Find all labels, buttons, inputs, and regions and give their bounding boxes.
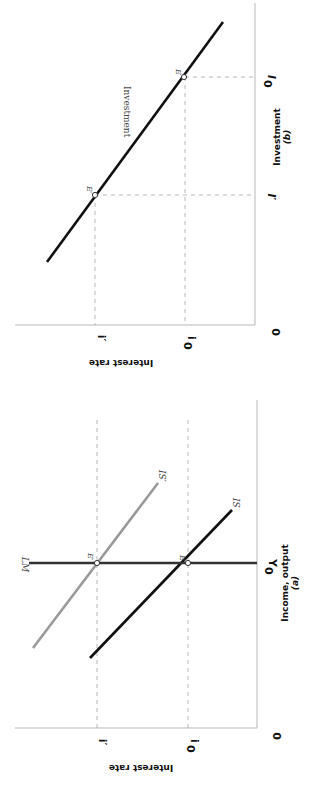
point-E-b (181, 74, 186, 79)
label-E-a: E (178, 554, 187, 561)
tick-i0-a: i 0 (184, 739, 201, 753)
svg-text:0: 0 (261, 80, 274, 88)
point-E-a (185, 560, 190, 565)
svg-text:I: I (265, 75, 278, 79)
panel-a-is-lm: E E′ LM IS′ IS 0 i 0 i′ Interest rate Y … (15, 400, 300, 773)
origin-label-b: 0 (269, 328, 282, 336)
svg-text:i: i (188, 739, 201, 743)
caption-a: (a) (290, 576, 300, 590)
x-axis-label-a: Income, output (280, 544, 290, 622)
label-E-prime-a: E′ (86, 552, 95, 561)
label-E-prime-b: E′ (85, 185, 94, 194)
label-lm: LM (20, 556, 30, 573)
is-curve (90, 510, 232, 658)
y-axis-label-b: Interest rate (89, 358, 153, 368)
point-E-prime-a (94, 560, 99, 565)
label-E-b: E (174, 68, 183, 75)
tick-i-prime-a: i′ (96, 739, 109, 746)
panel-b-investment: E E′ Investment 0 i 0 i′ Interest rate I… (15, 3, 292, 368)
investment-curve (47, 22, 223, 262)
svg-text:i: i (185, 336, 198, 340)
tick-i0-b: i 0 (181, 336, 198, 350)
svg-text:0: 0 (181, 342, 194, 350)
svg-text:0: 0 (184, 745, 197, 753)
diagram-canvas: E E′ Investment 0 i 0 i′ Interest rate I… (0, 0, 309, 790)
label-is-prime: IS′ (157, 469, 167, 482)
label-is: IS (231, 497, 241, 508)
tick-I0: I 0 (261, 75, 278, 88)
tick-I-prime: I′ (265, 194, 278, 201)
origin-label-a: 0 (270, 732, 283, 740)
tick-Y0: Y 0 (262, 558, 279, 575)
tick-i-prime-b: i′ (95, 335, 108, 342)
label-investment-curve: Investment (122, 86, 132, 138)
y-axis-label-a: Interest rate (109, 763, 173, 773)
caption-b: (b) (282, 130, 292, 145)
svg-text:0: 0 (262, 567, 275, 575)
x-axis-label-b: Investment (272, 108, 282, 166)
